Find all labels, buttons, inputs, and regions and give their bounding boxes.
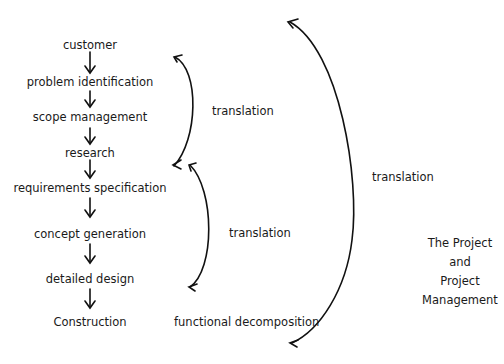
down-arrow-icon — [85, 128, 95, 144]
functional-decomposition-label: functional decomposition — [174, 315, 319, 329]
side-title-line4: Management — [422, 291, 498, 310]
bracket-label-translation-1: translation — [212, 104, 274, 118]
side-title-line1: The Project — [422, 234, 498, 253]
down-arrow-icon — [85, 52, 95, 73]
flow-step-scope-management: scope management — [33, 110, 147, 124]
big-curve-arrow-icon — [288, 19, 354, 347]
bracket-label-translation-2: translation — [229, 226, 291, 240]
flow-step-research: research — [65, 146, 115, 160]
flow-step-detailed-design: detailed design — [46, 272, 135, 286]
down-arrow-icon — [85, 160, 95, 178]
side-title: The Project and Project Management — [422, 234, 498, 310]
down-arrow-icon — [85, 289, 95, 308]
down-arrow-icon — [85, 244, 95, 263]
flow-step-concept-generation: concept generation — [34, 227, 146, 241]
bracket-arrow-icon — [173, 55, 193, 169]
flow-step-requirements-specification: requirements specification — [13, 181, 166, 195]
side-title-line3: Project — [422, 272, 498, 291]
flow-step-construction: Construction — [53, 315, 126, 329]
down-arrow-icon — [85, 198, 95, 217]
flow-step-problem-identification: problem identification — [27, 75, 153, 89]
down-arrow-icon — [85, 91, 95, 107]
bracket-arrow-icon — [189, 163, 209, 291]
side-title-line2: and — [422, 253, 498, 272]
bracket-label-translation-3: translation — [372, 170, 434, 184]
flow-step-customer: customer — [63, 38, 117, 52]
